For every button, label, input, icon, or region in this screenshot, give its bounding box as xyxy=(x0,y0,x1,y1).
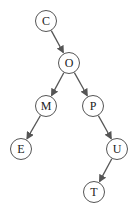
edges-layer xyxy=(0,0,137,219)
node-label: U xyxy=(113,142,122,157)
edge-arrow-m-e xyxy=(27,116,40,139)
tree-diagram: C O M P E U T xyxy=(0,0,137,219)
node-label: P xyxy=(90,99,97,114)
tree-node-c: C xyxy=(35,10,57,32)
tree-node-p: P xyxy=(82,95,104,117)
tree-node-t: T xyxy=(83,181,105,203)
node-label: T xyxy=(90,185,97,200)
tree-node-u: U xyxy=(106,138,128,160)
edge-arrow-p-u xyxy=(98,116,111,139)
tree-node-e: E xyxy=(10,138,32,160)
tree-node-o: O xyxy=(58,52,80,74)
node-label: O xyxy=(65,56,74,71)
node-label: M xyxy=(41,99,52,114)
node-label: E xyxy=(17,142,24,157)
edge-arrow-o-m xyxy=(52,73,64,96)
edge-arrow-c-o xyxy=(51,31,63,53)
edge-arrow-u-t xyxy=(100,159,112,182)
tree-node-m: M xyxy=(35,95,57,117)
node-label: C xyxy=(42,14,50,29)
edge-arrow-o-p xyxy=(74,73,87,96)
